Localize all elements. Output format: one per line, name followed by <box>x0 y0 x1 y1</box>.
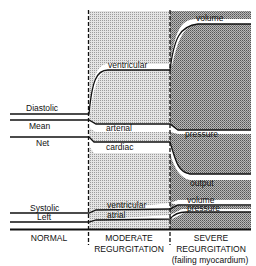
label-ventricular-bottom: ventricular <box>107 200 146 210</box>
caption-severe-line3: (failing myocardium) <box>172 255 249 265</box>
label-mean: Mean <box>29 121 51 131</box>
label-pressure-bottom: pressure <box>187 203 220 213</box>
caption-severe-line1: SEVERE <box>194 233 229 243</box>
label-atrial: atrial <box>107 210 126 220</box>
caption-moderate-line2: REGURGITATION <box>94 244 164 254</box>
caption-severe-line2: REGURGITATION <box>176 244 246 254</box>
label-output: output <box>190 178 214 188</box>
label-diastolic: Diastolic <box>26 103 59 113</box>
label-pressure-mid: pressure <box>185 129 218 139</box>
label-left: Left <box>37 212 52 222</box>
label-net: Net <box>36 138 50 148</box>
caption-normal: NORMAL <box>31 233 68 243</box>
moderate-shaded-region <box>89 11 170 229</box>
regurgitation-diagram: Diastolic Mean Net Systolic Left ventric… <box>0 0 256 266</box>
caption-moderate-line1: MODERATE <box>105 233 153 243</box>
label-cardiac: cardiac <box>106 142 134 152</box>
label-arterial: arterial <box>106 123 132 133</box>
label-volume-top: volume <box>196 13 224 23</box>
label-ventricular-top: ventricular <box>108 60 147 70</box>
